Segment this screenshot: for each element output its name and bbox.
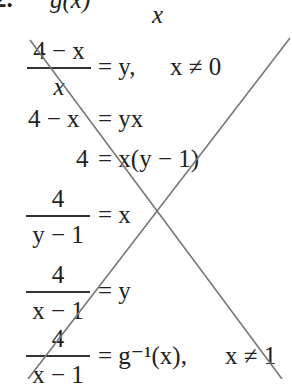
cross-out-mark — [0, 0, 292, 379]
